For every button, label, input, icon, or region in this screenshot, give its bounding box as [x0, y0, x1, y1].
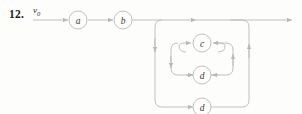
feedback-loop-inner-right [213, 43, 225, 52]
node-a-label: a [76, 16, 81, 26]
feedback-loop-middle-left [171, 43, 193, 75]
node-d-outer-label: d [200, 103, 205, 113]
feedback-loop-outer-left [155, 20, 193, 107]
feedback-loop-outer-right [211, 20, 249, 107]
feedback-loop-middle-right [211, 43, 233, 75]
figure-canvas: 12. v0 [0, 0, 302, 114]
node-d-middle-label: d [200, 71, 205, 81]
feedback-loop-inner-left [179, 43, 191, 52]
flow-diagram: a b c d d [0, 0, 302, 114]
node-b-label: b [121, 16, 126, 26]
